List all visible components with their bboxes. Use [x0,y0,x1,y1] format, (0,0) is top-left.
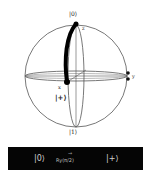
operation-bar: |0⟩ → Ry(π/2) |+⟩ [8,147,143,170]
label-z-axis: z [82,26,85,31]
final-state: |+⟩ [106,154,119,163]
bloch-sphere: |0⟩ |1⟩ z x y |+⟩ [0,0,151,140]
arrow-icon: → [68,150,72,156]
bloch-sphere-svg [0,0,151,140]
gate-label: Ry(π/2) [56,157,74,163]
label-plus-state: |+⟩ [55,94,67,101]
label-ket-1: |1⟩ [69,129,77,135]
label-y-axis: y [132,74,135,79]
initial-state: |0⟩ [34,154,45,163]
start-point [74,22,79,27]
label-ket-0: |0⟩ [69,11,77,17]
label-x-axis: x [58,85,61,90]
end-point [64,79,70,85]
